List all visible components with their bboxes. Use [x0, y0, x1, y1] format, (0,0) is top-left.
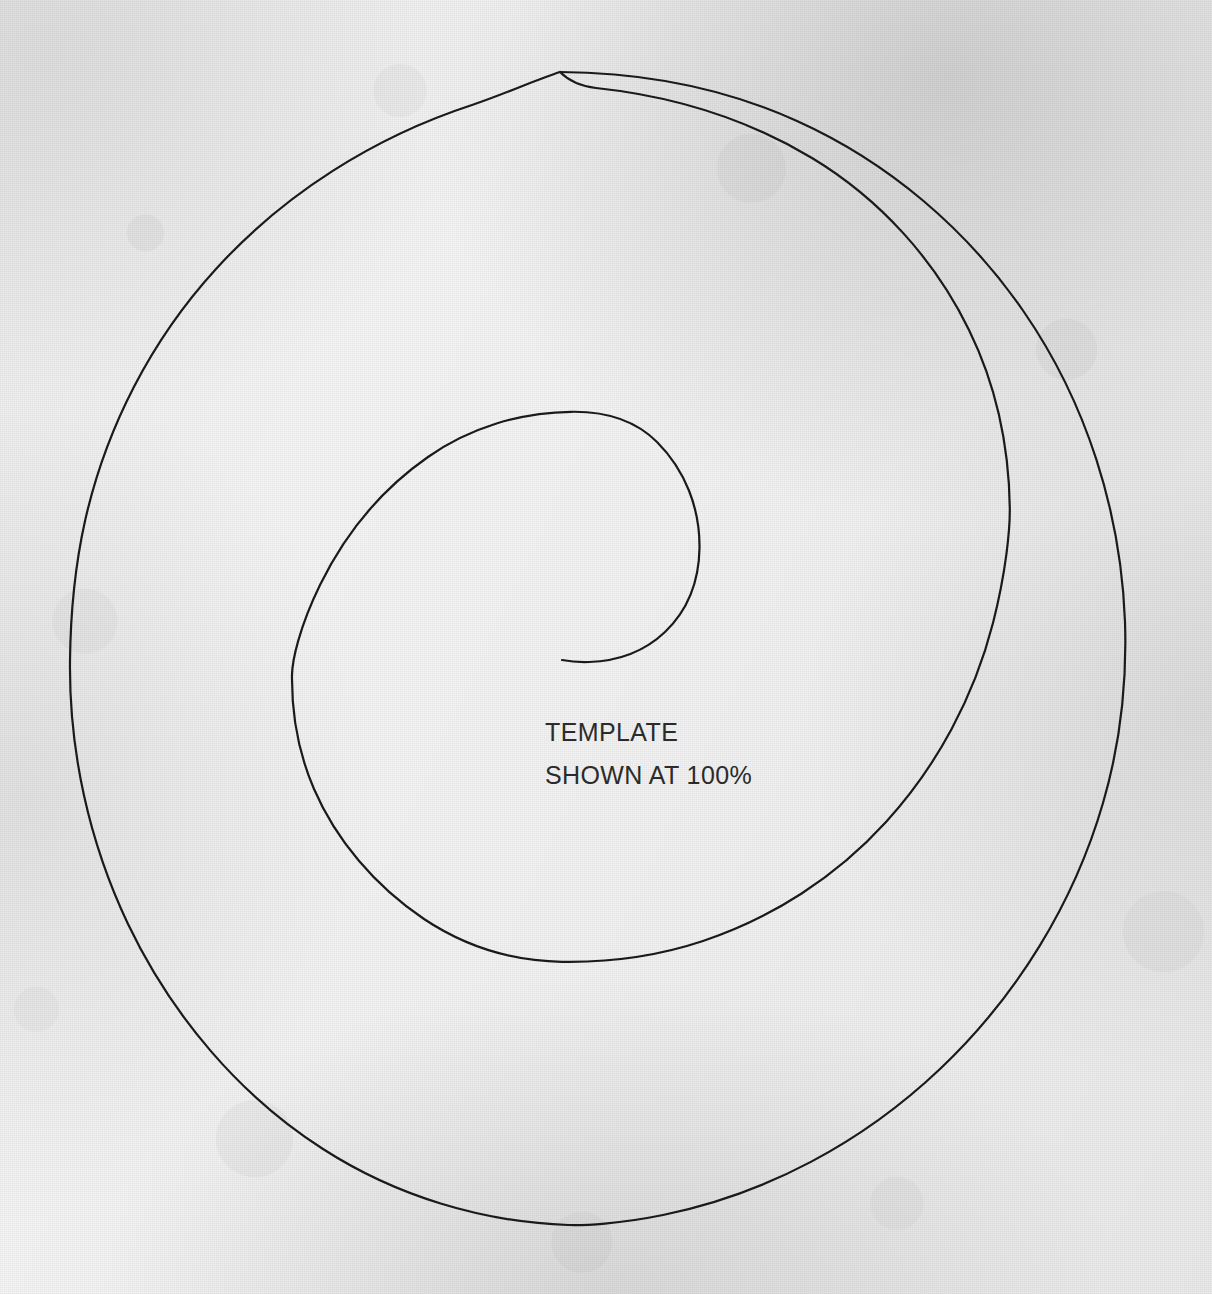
caption-line-scale: SHOWN AT 100% [545, 761, 752, 790]
spiral-outer-tail [85, 72, 560, 521]
spiral-drawing-area [0, 0, 1212, 1294]
spiral-template-svg [0, 0, 1212, 1294]
spiral-curve [292, 72, 1010, 962]
spiral-outer-whorl [70, 72, 1125, 1225]
spiral-template-page: TEMPLATE SHOWN AT 100% [0, 0, 1212, 1294]
caption-line-template: TEMPLATE [545, 718, 678, 747]
